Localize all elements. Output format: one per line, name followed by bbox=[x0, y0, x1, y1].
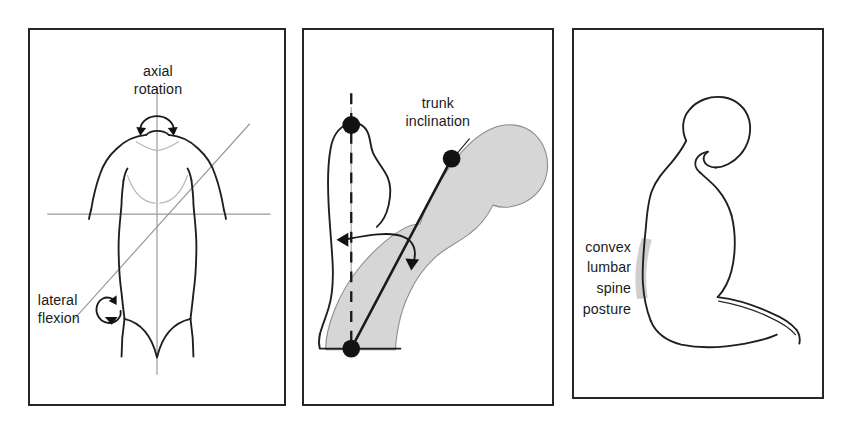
panel-b-drawing: trunk inclination bbox=[304, 30, 552, 404]
lateral-flexion-label-line2: flexion bbox=[38, 310, 80, 326]
right-chest-contour bbox=[160, 175, 188, 203]
sensor-marker-upper-spine bbox=[342, 116, 360, 134]
lateral-flexion-label-line1: lateral bbox=[38, 292, 78, 308]
chest-abdomen-contour bbox=[718, 215, 735, 297]
convex-lumbar-label-line2: lumbar bbox=[587, 259, 631, 275]
jaw-neck-contour bbox=[695, 152, 708, 173]
trunk-inclination-label-line2: inclination bbox=[406, 113, 470, 129]
upright-trunk-right-contour bbox=[347, 123, 390, 227]
sensor-marker-hip bbox=[342, 340, 360, 358]
inclination-arc-arrowhead-left bbox=[336, 233, 348, 247]
panel-convex-lumbar-posture-view: convex lumbar spine posture bbox=[572, 28, 824, 399]
left-armpit-tick bbox=[124, 169, 128, 181]
right-upper-arm bbox=[224, 210, 226, 219]
buttock-seat-contour bbox=[651, 321, 777, 347]
chin-contour bbox=[704, 152, 716, 168]
trunk-inclination-label-line1: trunk bbox=[422, 95, 455, 111]
panel-a-drawing: axial rotation lateral flexion bbox=[30, 30, 284, 404]
trunk-posture-measurement-figure: axial rotation lateral flexion bbox=[0, 0, 850, 423]
lateral-flexion-arrowhead-upper bbox=[109, 295, 117, 305]
sensor-marker-trunk-top bbox=[443, 150, 461, 168]
left-upper-arm bbox=[89, 210, 91, 219]
panel-c-drawing: convex lumbar spine posture bbox=[574, 30, 822, 397]
neck-front-contour bbox=[700, 172, 731, 215]
right-armpit-tick bbox=[188, 169, 192, 181]
back-spine-contour bbox=[643, 141, 687, 321]
right-torso-side bbox=[190, 180, 196, 319]
convex-lumbar-label-line4: posture bbox=[583, 301, 631, 317]
convex-lumbar-label-line1: convex bbox=[585, 239, 631, 255]
left-shoulder-contour bbox=[91, 135, 146, 210]
right-shoulder-contour bbox=[169, 135, 224, 210]
axial-rotation-label-line1: axial bbox=[143, 63, 173, 79]
head-contour bbox=[683, 97, 750, 168]
convex-lumbar-label-line3: spine bbox=[596, 280, 631, 296]
panel-trunk-inclination-sagittal-view: trunk inclination bbox=[302, 28, 554, 406]
lateral-flexion-axis-line bbox=[74, 124, 249, 319]
panel-axial-lateral-frontal-view: axial rotation lateral flexion bbox=[28, 28, 286, 406]
axial-rotation-label-line2: rotation bbox=[134, 81, 182, 97]
right-thigh-contour bbox=[190, 319, 193, 357]
left-chest-contour bbox=[127, 175, 155, 203]
left-thigh-contour bbox=[122, 319, 125, 357]
left-torso-side bbox=[119, 180, 125, 319]
knee-contour bbox=[796, 330, 799, 344]
